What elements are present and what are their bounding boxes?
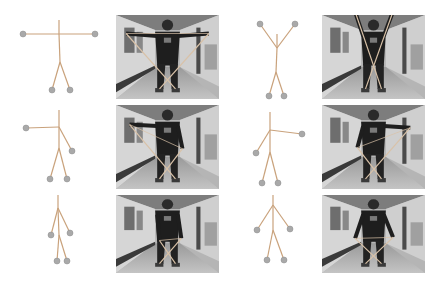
right-hand-joint bbox=[292, 21, 298, 27]
exercise-photo-1 bbox=[116, 15, 219, 99]
right-foot-joint bbox=[64, 258, 70, 264]
right-leg-bone bbox=[59, 235, 67, 261]
exercise-photo-2 bbox=[322, 15, 425, 99]
right-hand-joint bbox=[92, 31, 98, 37]
stick-figure-4 bbox=[253, 112, 305, 186]
left-arm-bone bbox=[51, 208, 58, 235]
exercise-photo-3 bbox=[116, 105, 219, 189]
left-hand-joint bbox=[23, 125, 29, 131]
left-hand-joint bbox=[254, 227, 260, 233]
right-foot-joint bbox=[275, 180, 281, 186]
right-foot-joint bbox=[67, 87, 73, 93]
right-hand-joint bbox=[299, 131, 305, 137]
left-hand-joint bbox=[257, 21, 263, 27]
right-leg-bone bbox=[276, 72, 284, 96]
exercise-photo-6 bbox=[322, 195, 425, 273]
right-hand-joint bbox=[69, 148, 75, 154]
stick-figure-6 bbox=[254, 195, 293, 263]
stick-figure-2 bbox=[257, 21, 298, 99]
left-hand-joint bbox=[48, 232, 54, 238]
right-foot-joint bbox=[281, 93, 287, 99]
exercise-photo-4 bbox=[322, 105, 425, 189]
left-foot-joint bbox=[47, 176, 53, 182]
right-hand-joint bbox=[67, 230, 73, 236]
right-leg-bone bbox=[59, 148, 67, 179]
spine-bone bbox=[276, 48, 277, 72]
left-leg-bone bbox=[262, 152, 270, 183]
left-foot-joint bbox=[264, 257, 270, 263]
right-arm-bone bbox=[270, 130, 302, 134]
left-foot-joint bbox=[266, 93, 272, 99]
left-leg-bone bbox=[52, 62, 60, 90]
stick-figure-3 bbox=[23, 110, 75, 182]
left-foot-joint bbox=[259, 180, 265, 186]
left-foot-joint bbox=[54, 258, 60, 264]
right-arm-bone bbox=[59, 127, 72, 151]
left-arm-bone bbox=[260, 24, 277, 48]
left-arm-bone bbox=[26, 127, 59, 128]
left-hand-joint bbox=[253, 150, 259, 156]
left-leg-bone bbox=[50, 148, 59, 179]
spine-bone bbox=[59, 34, 60, 62]
right-foot-joint bbox=[64, 176, 70, 182]
right-leg-bone bbox=[273, 230, 284, 260]
right-leg-bone bbox=[60, 62, 70, 90]
spine-bone bbox=[58, 208, 59, 235]
left-leg-bone bbox=[269, 72, 276, 96]
left-hand-joint bbox=[20, 31, 26, 37]
left-arm-bone bbox=[257, 205, 273, 230]
right-foot-joint bbox=[281, 257, 287, 263]
right-hand-joint bbox=[287, 226, 293, 232]
stick-figure-1 bbox=[20, 20, 98, 93]
right-arm-bone bbox=[273, 205, 290, 229]
left-foot-joint bbox=[49, 87, 55, 93]
left-leg-bone bbox=[57, 235, 59, 261]
stick-figure-5 bbox=[48, 195, 73, 264]
right-arm-bone bbox=[277, 24, 295, 48]
left-leg-bone bbox=[267, 230, 273, 260]
exercise-photo-5 bbox=[116, 195, 219, 273]
left-arm-bone bbox=[256, 130, 270, 153]
right-arm-bone bbox=[58, 208, 70, 233]
right-leg-bone bbox=[270, 152, 278, 183]
